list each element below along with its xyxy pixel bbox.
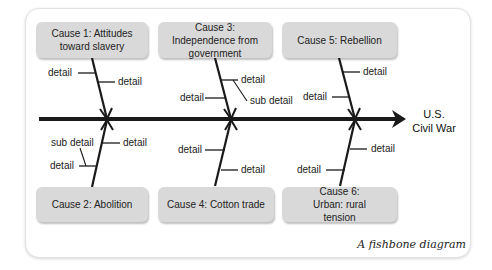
cause-label: Cause 4: Cotton trade xyxy=(167,198,265,211)
detail-label: detail xyxy=(180,92,204,103)
effect-label: U.S. Civil War xyxy=(408,107,460,135)
detail-label: detail xyxy=(241,74,265,85)
cause-box-1: Cause 1: Attitudes toward slavery xyxy=(36,22,148,58)
cause-label: Cause 5: Rebellion xyxy=(297,34,382,47)
detail-label: detail xyxy=(50,160,74,171)
diagram-caption: A fishbone diagram xyxy=(357,238,466,251)
cause-label: Cause 2: Abolition xyxy=(52,198,133,211)
effect-line-2: Civil War xyxy=(408,121,460,135)
sub-detail-label: sub detail xyxy=(51,137,94,148)
detail-label: detail xyxy=(123,137,147,148)
detail-label: detail xyxy=(178,144,202,155)
detail-label: detail xyxy=(241,164,265,175)
effect-line-1: U.S. xyxy=(408,107,460,121)
detail-label: detail xyxy=(371,143,395,154)
detail-label: detail xyxy=(363,66,387,77)
cause-box-3: Cause 3: Independence from government xyxy=(158,22,272,58)
cause-box-4: Cause 4: Cotton trade xyxy=(158,187,274,222)
detail-label: detail xyxy=(303,91,327,102)
cause-label: Cause 6: Urban: rural tension xyxy=(312,185,367,224)
cause-box-5: Cause 5: Rebellion xyxy=(282,22,397,58)
sub-detail-label: sub detail xyxy=(250,95,293,106)
detail-label: detail xyxy=(297,164,321,175)
cause-label: Cause 3: Independence from government xyxy=(162,21,268,60)
cause-label: Cause 1: Attitudes toward slavery xyxy=(40,27,144,53)
detail-label: detail xyxy=(118,76,142,87)
cause-box-2: Cause 2: Abolition xyxy=(36,187,148,222)
detail-label: detail xyxy=(48,67,72,78)
cause-box-6: Cause 6: Urban: rural tension xyxy=(282,187,397,222)
